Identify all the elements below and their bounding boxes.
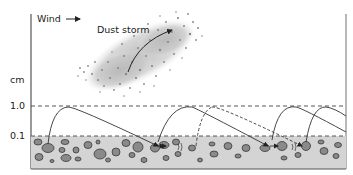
level-label-1-0: 1.0 [10,100,25,111]
saltation-diagram: Wind Dust storm cm 1.0 0.1 [0,0,353,175]
dust-storm-cloud [74,4,207,106]
dust-storm-label: Dust storm [97,24,150,35]
wind-label: Wind [37,13,61,24]
level-label-0-1: 0.1 [10,130,25,141]
axis-unit-label: cm [10,74,24,85]
